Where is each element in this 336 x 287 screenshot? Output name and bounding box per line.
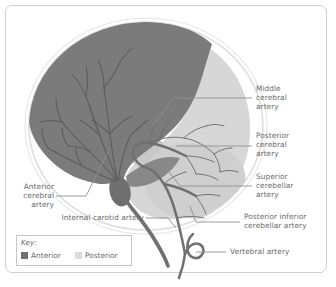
label-line: cerebellar artery: [244, 221, 307, 230]
label-line: artery: [0, 200, 54, 209]
label-line: cerebral: [0, 191, 54, 200]
label-line: Anterior: [0, 182, 54, 191]
label-line: cerebral: [256, 93, 287, 102]
label-line: Vertebral artery: [230, 247, 289, 256]
label-line: Posterior: [256, 131, 289, 140]
label-vertebral-artery: Vertebral artery: [230, 247, 289, 256]
label-line: cerebellar: [256, 181, 293, 190]
key-swatch-posterior: [75, 252, 82, 259]
key-item-anterior: Anterior: [21, 251, 61, 260]
key-label-anterior: Anterior: [31, 251, 61, 260]
key-title: Key:: [21, 238, 37, 247]
key-swatch-anterior: [21, 252, 28, 259]
label-line: Internal carotid artery: [56, 213, 144, 222]
label-line: artery: [256, 149, 289, 158]
label-middle-cerebral-artery: Middle cerebral artery: [256, 84, 287, 112]
label-anterior-cerebral-artery: Anterior cerebral artery: [0, 182, 54, 210]
figure-canvas: Middle cerebral artery Posterior cerebra…: [0, 0, 336, 287]
label-superior-cerebellar-artery: Superior cerebellar artery: [256, 172, 293, 200]
key-item-posterior: Posterior: [75, 251, 118, 260]
label-line: artery: [256, 102, 287, 111]
key-label-posterior: Posterior: [85, 251, 118, 260]
label-posterior-inferior-cerebellar-artery: Posterior inferior cerebellar artery: [244, 212, 307, 230]
label-line: Superior: [256, 172, 293, 181]
label-line: Posterior inferior: [244, 212, 307, 221]
label-line: artery: [256, 190, 293, 199]
label-internal-carotid-artery: Internal carotid artery: [56, 213, 144, 222]
label-posterior-cerebral-artery: Posterior cerebral artery: [256, 131, 289, 159]
label-line: cerebral: [256, 140, 289, 149]
label-line: Middle: [256, 84, 287, 93]
